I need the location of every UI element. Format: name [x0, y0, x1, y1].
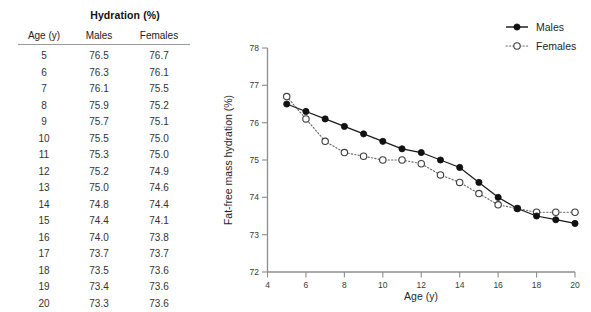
- fat-free-mass-hydration-line-chart: 72737475767778 468101214161820 Fat-free …: [215, 0, 591, 312]
- cell-age: 14: [18, 197, 70, 214]
- data-point-males: [553, 217, 559, 223]
- series-males-line: [287, 104, 575, 223]
- cell-age: 12: [18, 164, 70, 181]
- data-point-males: [360, 131, 366, 137]
- data-point-females: [284, 93, 290, 99]
- cell-males: 76.1: [70, 81, 128, 98]
- table-row: 1075.575.0: [18, 131, 190, 148]
- data-point-males: [418, 149, 424, 155]
- data-point-males: [322, 116, 328, 122]
- cell-females: 75.5: [128, 81, 190, 98]
- cell-males: 75.3: [70, 147, 128, 164]
- data-point-females: [303, 116, 309, 122]
- legend-marker-females: [514, 43, 520, 49]
- x-tick-label: 18: [532, 280, 542, 290]
- cell-males: 73.4: [70, 279, 128, 296]
- data-point-males: [284, 101, 290, 107]
- x-tick-label: 14: [455, 280, 465, 290]
- legend-label-females: Females: [536, 40, 576, 52]
- x-tick-label: 10: [378, 280, 388, 290]
- table-row: 1674.073.8: [18, 230, 190, 247]
- table-row: 676.376.1: [18, 65, 190, 82]
- cell-females: 74.6: [128, 180, 190, 197]
- cell-females: 74.1: [128, 213, 190, 230]
- y-tick-label: 75: [250, 155, 260, 165]
- y-tick-label: 73: [250, 230, 260, 240]
- table-row: 1375.074.6: [18, 180, 190, 197]
- hydration-chart-panel: 72737475767778 468101214161820 Fat-free …: [215, 0, 591, 312]
- cell-age: 11: [18, 147, 70, 164]
- data-point-females: [360, 153, 366, 159]
- legend-entry-males: Males: [506, 21, 564, 33]
- legend-label-males: Males: [536, 21, 564, 33]
- data-point-males: [399, 146, 405, 152]
- table-row: 1873.573.6: [18, 263, 190, 280]
- cell-females: 76.1: [128, 65, 190, 82]
- data-point-females: [495, 202, 501, 208]
- cell-males: 75.2: [70, 164, 128, 181]
- data-point-males: [341, 123, 347, 129]
- x-axis-ticks: 468101214161820: [265, 272, 580, 290]
- data-point-males: [303, 108, 309, 114]
- cell-age: 10: [18, 131, 70, 148]
- cell-age: 7: [18, 81, 70, 98]
- cell-females: 74.4: [128, 197, 190, 214]
- data-point-females: [456, 179, 462, 185]
- cell-males: 73.7: [70, 246, 128, 263]
- table-row: 975.775.1: [18, 114, 190, 131]
- data-point-females: [476, 190, 482, 196]
- cell-age: 20: [18, 296, 70, 312]
- data-point-females: [572, 209, 578, 215]
- x-tick-label: 16: [493, 280, 503, 290]
- x-tick-label: 12: [417, 280, 427, 290]
- cell-age: 19: [18, 279, 70, 296]
- cell-age: 6: [18, 65, 70, 82]
- cell-age: 9: [18, 114, 70, 131]
- table-row: 875.975.2: [18, 98, 190, 115]
- data-point-males: [572, 220, 578, 226]
- cell-females: 73.6: [128, 296, 190, 312]
- y-axis-title: Fat-free mass hydration (%): [222, 95, 234, 225]
- series-polyline: [287, 104, 575, 223]
- cell-males: 74.0: [70, 230, 128, 247]
- cell-age: 8: [18, 98, 70, 115]
- hydration-table-panel: Hydration (%) Age (y) Males Females 576.…: [0, 0, 215, 312]
- table-row: 2073.373.6: [18, 296, 190, 312]
- table-row: 1574.474.1: [18, 213, 190, 230]
- cell-males: 75.7: [70, 114, 128, 131]
- cell-females: 75.0: [128, 131, 190, 148]
- series-polyline: [287, 97, 575, 213]
- data-point-males: [437, 157, 443, 163]
- data-point-females: [341, 149, 347, 155]
- column-header-females: Females: [128, 29, 190, 45]
- column-header-males: Males: [70, 29, 128, 45]
- table-row: 1773.773.7: [18, 246, 190, 263]
- cell-males: 75.5: [70, 131, 128, 148]
- cell-males: 73.3: [70, 296, 128, 312]
- cell-age: 15: [18, 213, 70, 230]
- series-females-line: [287, 97, 575, 213]
- data-point-males: [514, 205, 520, 211]
- x-tick-label: 8: [342, 280, 347, 290]
- data-point-females: [380, 157, 386, 163]
- table-row: 1474.874.4: [18, 197, 190, 214]
- table-row: 1175.375.0: [18, 147, 190, 164]
- chart-legend: Males Females: [506, 21, 576, 52]
- cell-males: 73.5: [70, 263, 128, 280]
- y-tick-label: 76: [250, 118, 260, 128]
- table-body: 576.576.7676.376.1776.175.5875.975.2975.…: [18, 45, 190, 312]
- series-males-markers: [284, 101, 578, 227]
- data-point-males: [457, 164, 463, 170]
- cell-males: 75.9: [70, 98, 128, 115]
- data-point-females: [553, 209, 559, 215]
- table-header-row: Age (y) Males Females: [18, 29, 190, 45]
- data-point-females: [322, 138, 328, 144]
- cell-males: 76.5: [70, 45, 128, 65]
- table-row: 1275.274.9: [18, 164, 190, 181]
- cell-age: 13: [18, 180, 70, 197]
- cell-age: 5: [18, 45, 70, 65]
- cell-age: 17: [18, 246, 70, 263]
- table-row: 776.175.5: [18, 81, 190, 98]
- x-tick-label: 20: [570, 280, 580, 290]
- y-tick-label: 74: [250, 192, 260, 202]
